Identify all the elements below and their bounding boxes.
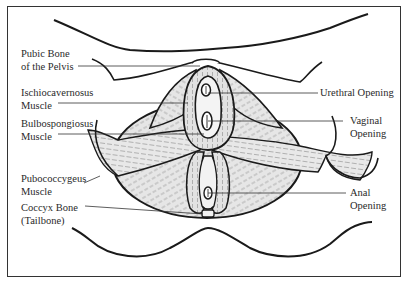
label-line: Ischiocavernosus [21, 86, 93, 99]
label-pubococcygeus: Pubococcygeus Muscle [21, 172, 86, 198]
label-pubic-bone: Pubic Bone of the Pelvis [21, 47, 74, 73]
label-line: Opening [350, 199, 386, 212]
label-line: Bulbospongiosus [21, 117, 93, 130]
label-ischiocavernosus: Ischiocavernosus Muscle [21, 86, 93, 112]
label-vaginal-opening: Vaginal Opening [350, 114, 386, 140]
label-line: Opening [350, 127, 386, 140]
label-line: Muscle [21, 99, 93, 112]
label-line: (Tailbone) [21, 214, 78, 227]
label-bulbospongiosus: Bulbospongiosus Muscle [21, 117, 93, 143]
label-line: Urethral Opening [320, 86, 394, 99]
coccyx-bone [202, 210, 214, 217]
label-coccyx: Coccyx Bone (Tailbone) [21, 201, 78, 227]
upper-body-outline [54, 14, 368, 51]
label-line: Pubococcygeus [21, 172, 86, 185]
label-line: Coccyx Bone [21, 201, 78, 214]
label-anal-opening: Anal Opening [350, 186, 386, 212]
label-line: Muscle [21, 185, 86, 198]
label-line: Muscle [21, 130, 93, 143]
label-line: Vaginal [350, 114, 386, 127]
label-line: of the Pelvis [21, 60, 74, 73]
label-line: Anal [350, 186, 386, 199]
lower-body-outline [72, 222, 372, 257]
label-urethral-opening: Urethral Opening [320, 86, 394, 99]
label-line: Pubic Bone [21, 47, 74, 60]
